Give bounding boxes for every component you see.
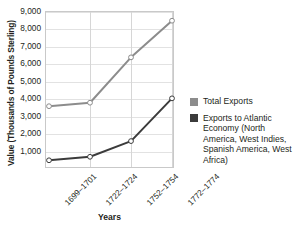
y-axis-tick-label: 2,000 <box>7 129 41 137</box>
plot-area <box>45 11 174 168</box>
x-axis-tick-label: 1699–1701 <box>63 172 98 207</box>
legend-item: Exports to Atlantic Economy (North Ameri… <box>190 113 299 166</box>
series-line-atlantic-exports <box>49 98 172 160</box>
y-axis-tick-label: 7,000 <box>7 42 41 50</box>
data-point-marker <box>170 18 175 23</box>
y-axis-tick-label: 3,000 <box>7 112 41 120</box>
y-axis-tick-label: 9,000 <box>7 7 41 15</box>
data-point-marker <box>47 158 52 163</box>
legend-label: Exports to Atlantic Economy (North Ameri… <box>203 113 299 166</box>
data-point-marker <box>129 55 134 60</box>
data-point-marker <box>88 154 93 159</box>
data-point-marker <box>47 104 52 109</box>
chart-figure: Value (Thousands of Pounds Sterling) 1,0… <box>0 0 299 230</box>
legend-swatch-icon <box>190 98 198 106</box>
legend-label: Total Exports <box>203 96 253 107</box>
data-point-marker <box>129 139 134 144</box>
y-axis-tick-label: 6,000 <box>7 59 41 67</box>
x-axis-tick-label: 1722–1724 <box>104 172 139 207</box>
y-axis-tick-label: 4,000 <box>7 94 41 102</box>
y-axis-tick-label: 1,000 <box>7 147 41 155</box>
legend-item: Total Exports <box>190 96 299 107</box>
x-axis-title: Years <box>45 212 174 222</box>
data-point-marker <box>88 100 93 105</box>
chart-legend: Total ExportsExports to Atlantic Economy… <box>190 96 299 172</box>
x-axis-tick-label: 1752–1754 <box>145 172 180 207</box>
series-line-total-exports <box>49 21 172 106</box>
y-axis-tick-label: 8,000 <box>7 24 41 32</box>
series-layer <box>46 12 175 169</box>
legend-swatch-icon <box>190 114 198 122</box>
y-axis-tick-label: 5,000 <box>7 77 41 85</box>
data-point-marker <box>170 96 175 101</box>
x-axis-tick-label: 1772–1774 <box>186 172 221 207</box>
